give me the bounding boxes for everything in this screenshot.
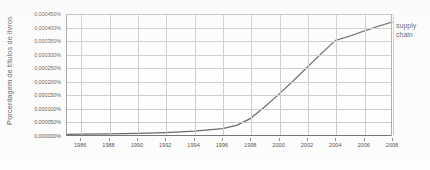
plot-frame-top-edge	[66, 14, 392, 15]
gridline-vertical	[110, 14, 111, 135]
gridline-vertical	[365, 14, 366, 135]
x-tick-label: 1994	[187, 142, 199, 148]
y-tick-label: 0,000350%	[34, 38, 61, 44]
x-tick-label: 1998	[244, 142, 256, 148]
gridline-horizontal	[67, 95, 392, 96]
y-tick-label: 0,000050%	[34, 119, 61, 125]
x-tick-label: 1986	[74, 142, 86, 148]
series-label-line-1: supply	[396, 22, 416, 31]
x-tick-mark	[250, 138, 251, 141]
x-tick-mark	[307, 138, 308, 141]
x-tick-label: 2004	[329, 142, 341, 148]
x-tick-mark	[80, 138, 81, 141]
gridline-vertical	[251, 14, 252, 135]
series-label-line-2: chain	[396, 31, 416, 40]
gridline-horizontal	[67, 109, 392, 110]
x-axis-tick-labels: 1986198819901992199419961998200020022004…	[66, 138, 392, 152]
x-tick-mark	[165, 138, 166, 141]
gridline-horizontal	[67, 41, 392, 42]
x-tick-label: 2008	[386, 142, 398, 148]
x-tick-label: 2000	[272, 142, 284, 148]
x-tick-mark	[137, 138, 138, 141]
x-tick-label: 1996	[216, 142, 228, 148]
x-tick-mark	[279, 138, 280, 141]
y-tick-label: 0,000200%	[34, 79, 61, 85]
series-end-label: supply chain	[396, 22, 416, 39]
gridline-vertical	[280, 14, 281, 135]
y-tick-label: 0,000450%	[34, 11, 61, 17]
y-axis-title-text: Porcentagem de títulos de livros	[5, 16, 14, 125]
series-line-supply-chain	[67, 14, 392, 135]
x-tick-label: 2002	[301, 142, 313, 148]
gridline-horizontal	[67, 28, 392, 29]
y-tick-label: 0,000400%	[34, 25, 61, 31]
gridline-horizontal	[67, 122, 392, 123]
y-tick-label: 0,000300%	[34, 52, 61, 58]
x-tick-mark	[364, 138, 365, 141]
x-tick-label: 1990	[131, 142, 143, 148]
plot-area	[66, 14, 392, 136]
gridline-vertical	[336, 14, 337, 135]
x-tick-mark	[335, 138, 336, 141]
chart-figure: Porcentagem de títulos de livros 0,00045…	[0, 0, 430, 170]
gridline-vertical	[223, 14, 224, 135]
gridline-vertical	[138, 14, 139, 135]
y-tick-label: 0,000100%	[34, 106, 61, 112]
y-axis-tick-labels: 0,000450%0,000400%0,000350%0,000300%0,00…	[18, 14, 64, 136]
x-tick-label: 1988	[102, 142, 114, 148]
gridline-vertical	[166, 14, 167, 135]
plot-frame-right-edge	[391, 14, 392, 136]
gridline-vertical	[81, 14, 82, 135]
y-tick-label: 0,000000%	[34, 133, 61, 139]
x-tick-mark	[222, 138, 223, 141]
gridline-vertical	[195, 14, 196, 135]
x-tick-mark	[109, 138, 110, 141]
x-tick-label: 2006	[357, 142, 369, 148]
x-tick-label: 1992	[159, 142, 171, 148]
y-tick-label: 0,000150%	[34, 92, 61, 98]
gridline-vertical	[393, 14, 394, 135]
x-tick-mark	[194, 138, 195, 141]
y-axis-title: Porcentagem de títulos de livros	[0, 0, 18, 140]
gridline-horizontal	[67, 55, 392, 56]
gridline-horizontal	[67, 82, 392, 83]
x-tick-mark	[392, 138, 393, 141]
gridline-horizontal	[67, 68, 392, 69]
gridline-vertical	[308, 14, 309, 135]
y-tick-label: 0,000250%	[34, 65, 61, 71]
